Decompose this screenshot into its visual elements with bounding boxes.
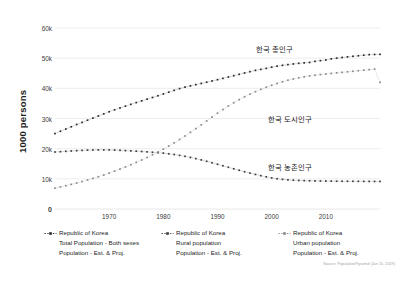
data-point (325, 59, 327, 61)
data-point (363, 69, 365, 71)
legend-label: Republic of KoreaUrban populationPopulat… (293, 228, 359, 258)
data-point (152, 151, 154, 153)
data-point (125, 105, 127, 107)
data-point (368, 69, 370, 71)
y-tick-label: 50k (22, 55, 52, 62)
data-point (314, 60, 316, 62)
data-point (141, 151, 143, 153)
data-point (76, 150, 78, 152)
data-point (363, 54, 365, 56)
data-point (222, 78, 224, 80)
y-tick-label: 0 (22, 206, 52, 213)
data-point (265, 176, 267, 178)
data-point (190, 157, 192, 159)
data-point (211, 116, 213, 118)
data-point (244, 96, 246, 98)
data-point (287, 179, 289, 181)
data-point (265, 68, 267, 70)
data-point (141, 159, 143, 161)
data-point (81, 181, 83, 183)
data-point (271, 177, 273, 179)
data-point (190, 85, 192, 87)
data-point (200, 83, 202, 85)
series-line (55, 54, 380, 133)
data-point (292, 78, 294, 80)
series-line (55, 150, 380, 182)
data-point (179, 88, 181, 90)
data-point (206, 160, 208, 162)
plot-canvas (55, 28, 380, 209)
data-point (336, 57, 338, 59)
data-point (157, 95, 159, 97)
data-point (255, 174, 257, 176)
legend-marker-icon (278, 229, 291, 238)
data-point (336, 72, 338, 74)
data-point (222, 165, 224, 167)
data-point (92, 178, 94, 180)
legend-label-line-1: Republic of Korea (59, 228, 139, 238)
data-point (92, 117, 94, 119)
data-point (341, 57, 343, 59)
data-point (179, 139, 181, 141)
data-point (130, 164, 132, 166)
data-point (168, 153, 170, 155)
data-point (135, 102, 137, 104)
series-layer (54, 53, 381, 189)
data-point (60, 130, 62, 132)
data-point (119, 149, 121, 151)
population-line-chart: 1000 persons 010k20k30k40k50k60k 1970198… (0, 0, 403, 291)
data-point (125, 166, 127, 168)
legend-label-line-3: Population - Est. & Proj. (59, 248, 139, 258)
legend-item-2[interactable]: Republic of KoreaUrban populationPopulat… (278, 228, 395, 262)
data-point (303, 76, 305, 78)
data-point (363, 181, 365, 183)
data-point (54, 187, 56, 189)
plot-area (55, 28, 380, 209)
data-point (206, 120, 208, 122)
data-point (341, 180, 343, 182)
data-point (282, 64, 284, 66)
legend-item-1[interactable]: Republic of KoreaRural populationPopulat… (161, 228, 278, 262)
data-point (65, 128, 67, 130)
data-point (379, 181, 381, 183)
series-2 (54, 68, 381, 189)
data-point (260, 69, 262, 71)
data-point (130, 104, 132, 106)
legend-item-0[interactable]: Republic of KoreaTotal Population - Both… (44, 228, 161, 262)
source-note: Source: PopulationPyramid (Jan 15, 2019) (323, 262, 395, 266)
data-point (114, 149, 116, 151)
data-point (146, 157, 148, 159)
series-1 (54, 149, 381, 182)
data-point (227, 166, 229, 168)
data-point (314, 74, 316, 76)
data-point (70, 184, 72, 186)
data-point (200, 124, 202, 126)
data-point (60, 151, 62, 153)
legend-marker-icon (161, 229, 174, 238)
legend-label-line-3: Population - Est. & Proj. (176, 248, 242, 258)
data-point (211, 162, 213, 164)
y-tick-label: 40k (22, 85, 52, 92)
data-point (103, 113, 105, 115)
data-point (173, 154, 175, 156)
x-tick-label: 2000 (265, 213, 279, 220)
data-point (298, 77, 300, 79)
data-point (374, 68, 376, 70)
data-point (65, 185, 67, 187)
data-point (70, 150, 72, 152)
data-point (60, 186, 62, 188)
data-point (227, 105, 229, 107)
data-point (244, 171, 246, 173)
legend-label-line-3: Population - Est. & Proj. (293, 248, 359, 258)
data-point (108, 172, 110, 174)
data-point (368, 181, 370, 183)
data-point (184, 135, 186, 137)
data-point (249, 172, 251, 174)
legend-marker-icon (44, 229, 57, 238)
data-point (303, 180, 305, 182)
data-point (233, 168, 235, 170)
x-tick-label: 1990 (210, 213, 224, 220)
data-point (347, 180, 349, 182)
data-point (217, 79, 219, 81)
data-point (347, 71, 349, 73)
